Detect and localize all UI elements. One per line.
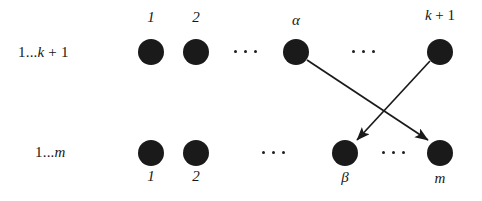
node-label-top-2: 2 [176,9,216,26]
node-label-alpha: α [276,12,316,29]
ellipsis-dot [254,50,257,53]
node-k-plus-1 [427,39,453,65]
node-alpha [283,39,309,65]
ellipsis-dot [244,50,247,53]
node-top-1 [138,39,164,65]
ellipsis-top-left [234,50,257,53]
node-label-top-1: 1 [131,9,171,26]
ellipsis-dot [372,50,375,53]
edge-layer [0,0,482,201]
ellipsis-dot [362,50,365,53]
ellipsis-dot [262,151,265,154]
node-top-2 [183,39,209,65]
ellipsis-dot [282,151,285,154]
bipartite-graph-figure: 1...k + 1 1...m 1 2 α k + 1 1 2 β m [0,0,482,201]
node-label-bottom-1: 1 [131,168,171,185]
node-label-bottom-2: 2 [176,168,216,185]
ellipsis-dot [392,151,395,154]
node-label-m: m [420,170,460,187]
ellipsis-bottom-right [382,151,405,154]
ellipsis-dot [234,50,237,53]
ellipsis-dot [352,50,355,53]
ellipsis-dot [272,151,275,154]
node-beta [332,140,358,166]
node-bottom-2 [183,140,209,166]
node-bottom-1 [138,140,164,166]
node-m [427,140,453,166]
ellipsis-bottom-left [262,151,285,154]
ellipsis-top-right [352,50,375,53]
node-label-k-plus-1: k + 1 [410,7,470,24]
ellipsis-dot [382,151,385,154]
node-label-beta: β [325,169,365,186]
ellipsis-dot [402,151,405,154]
